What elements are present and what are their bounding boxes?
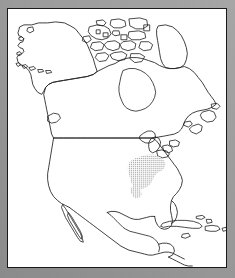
landmass-alaska (16, 22, 97, 94)
landmass-central-america (169, 257, 193, 266)
figure-root: North America (0, 0, 235, 278)
landmass-cuba (161, 220, 203, 228)
range-description: Upper Mississippi Valley and Ohio Valley… (0, 16, 1, 17)
north-america-map (8, 9, 226, 267)
landmass-newfoundland (200, 103, 220, 122)
figure-caption (0, 16, 1, 17)
landmass-bahamas (196, 215, 212, 223)
landmass-puerto-rico (222, 227, 226, 231)
landmass-arctic-archipelago (82, 18, 152, 63)
landmass-nova-scotia (183, 121, 202, 134)
landmass-vancouver-island (48, 113, 61, 123)
figure-title: North America (0, 21, 1, 22)
landmass-mexico (69, 207, 184, 259)
landmass-hispaniola (205, 225, 220, 231)
landmass-greenland-edge (157, 25, 188, 69)
shaded-range-region (128, 155, 166, 199)
map-panel (7, 8, 227, 268)
landmass-jamaica (181, 233, 190, 238)
